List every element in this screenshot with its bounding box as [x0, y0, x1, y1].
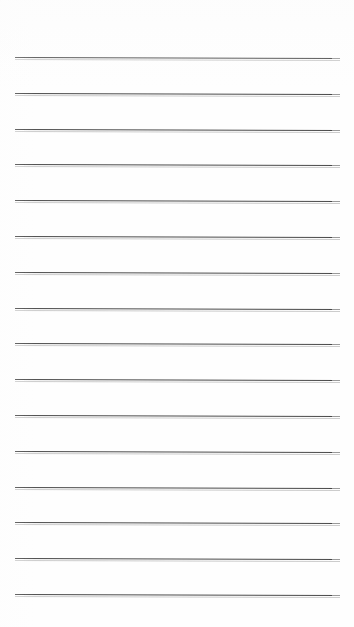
ruled-line	[15, 308, 340, 310]
ruled-line	[15, 164, 340, 166]
lined-paper-page	[0, 0, 354, 627]
ruled-lines-container	[0, 0, 354, 627]
ruled-line	[15, 451, 340, 453]
ruled-line	[15, 272, 340, 274]
ruled-line	[15, 415, 340, 417]
ruled-line	[15, 93, 340, 95]
ruled-line	[15, 343, 340, 345]
ruled-line	[15, 594, 340, 596]
ruled-line	[15, 129, 340, 131]
ruled-line	[15, 57, 340, 59]
ruled-line	[15, 236, 340, 238]
ruled-line	[15, 200, 340, 202]
ruled-line	[15, 379, 340, 381]
ruled-line	[15, 522, 340, 524]
ruled-line	[15, 487, 340, 489]
ruled-line	[15, 558, 340, 560]
